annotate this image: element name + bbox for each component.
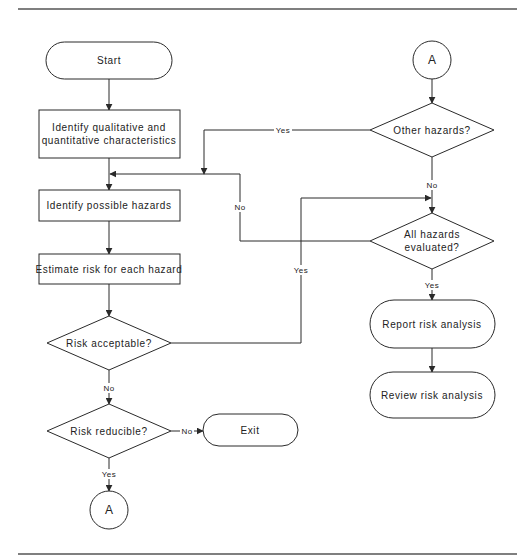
svg-text:Risk reducible?: Risk reducible?	[70, 426, 147, 437]
label-all-evaluated-no: No	[234, 203, 245, 212]
svg-text:Estimate risk for each hazard: Estimate risk for each hazard	[36, 264, 183, 275]
flowchart: Start Identify qualitative and quantitat…	[0, 0, 527, 560]
other-hazards-decision: Other hazards?	[370, 103, 494, 157]
label-risk-acceptable-yes: Yes	[294, 266, 309, 275]
start-terminal: Start	[46, 42, 172, 79]
all-hazards-evaluated-decision: All hazards evaluated?	[370, 213, 494, 269]
svg-text:Risk acceptable?: Risk acceptable?	[66, 338, 152, 349]
label-risk-acceptable-no: No	[103, 384, 114, 393]
label-other-hazards-no: No	[426, 181, 437, 190]
svg-text:Exit: Exit	[240, 425, 259, 436]
svg-text:A: A	[428, 53, 436, 67]
identify-hazards-process: Identify possible hazards	[39, 190, 180, 221]
connector-a-top: A	[413, 41, 451, 79]
risk-acceptable-decision: Risk acceptable?	[47, 316, 171, 370]
exit-terminal: Exit	[203, 414, 298, 446]
svg-text:Start: Start	[97, 55, 121, 66]
connector-a-bottom: A	[90, 491, 128, 529]
identify-characteristics-process: Identify qualitative and quantitative ch…	[39, 110, 180, 158]
edge-other-hazards-yes	[204, 130, 370, 174]
svg-text:evaluated?: evaluated?	[405, 242, 460, 253]
svg-text:A: A	[105, 503, 113, 517]
report-risk-analysis-terminal: Report risk analysis	[370, 300, 495, 348]
review-risk-analysis-terminal: Review risk analysis	[370, 372, 495, 418]
label-risk-reducible-yes: Yes	[102, 470, 117, 479]
label-all-evaluated-yes: Yes	[425, 281, 440, 290]
svg-text:Other hazards?: Other hazards?	[393, 125, 470, 136]
label-other-hazards-yes: Yes	[276, 126, 291, 135]
label-risk-reducible-no: No	[181, 427, 192, 436]
svg-text:Identify possible hazards: Identify possible hazards	[46, 200, 171, 211]
risk-reducible-decision: Risk reducible?	[47, 404, 171, 458]
edge-all-evaluated-no	[240, 174, 370, 241]
svg-text:Review risk analysis: Review risk analysis	[381, 390, 483, 401]
svg-text:All hazards: All hazards	[404, 229, 460, 240]
svg-text:Identify qualitative and: Identify qualitative and	[52, 122, 166, 133]
estimate-risk-process: Estimate risk for each hazard	[36, 254, 183, 284]
svg-text:quantitative characteristics: quantitative characteristics	[42, 135, 177, 146]
svg-text:Report risk analysis: Report risk analysis	[382, 319, 481, 330]
